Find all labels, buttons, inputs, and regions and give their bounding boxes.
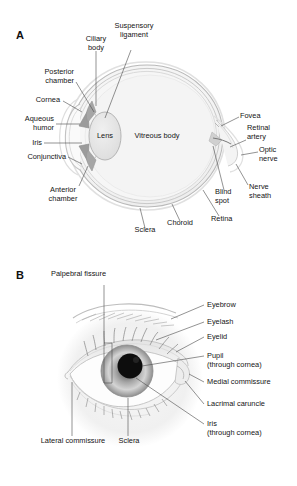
label-lateral-commissure: Lateral commissure <box>28 437 118 446</box>
eye-anatomy-figure: A <box>0 0 297 486</box>
pupil-disc <box>118 354 143 379</box>
label-medial-commissure: Medial commissure <box>207 378 297 387</box>
label-palpebral-fissure: Palpebral fissure <box>51 270 141 279</box>
panel-b-artwork <box>0 0 297 486</box>
label-pupil: Pupil (through cornea) <box>207 352 293 369</box>
label-eyebrow: Eyebrow <box>207 301 267 310</box>
label-lacrimal-caruncle: Lacrimal caruncle <box>207 400 297 409</box>
label-sclera-b: Sclera <box>110 437 148 446</box>
label-iris-through-cornea: Iris (through cornea) <box>207 420 293 437</box>
label-eyelid: Eyelid <box>207 333 267 342</box>
label-eyelash: Eyelash <box>207 318 267 327</box>
iris-and-pupil <box>101 345 153 397</box>
